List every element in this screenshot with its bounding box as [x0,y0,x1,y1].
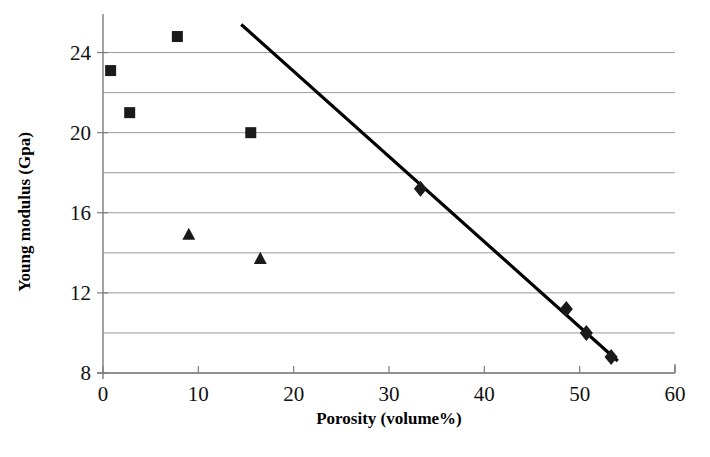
x-tick-labels: 0102030405060 [98,382,686,406]
x-tick-label-40: 40 [474,382,495,406]
x-tick-label-50: 50 [569,382,590,406]
triangle-marker-0 [182,228,195,240]
y-tick-label-16: 16 [70,201,91,225]
diamond-marker-0 [414,181,427,197]
square-marker-0 [105,65,116,76]
square-marker-3 [245,127,256,138]
y-tick-labels: 812162024 [70,41,92,385]
x-tick-label-10: 10 [188,382,209,406]
scatter-chart: 0102030405060 812162024 Porosity (volume… [0,0,710,457]
x-tick-label-60: 60 [665,382,686,406]
x-tick-label-20: 20 [283,382,304,406]
triangle-marker-1 [254,252,267,264]
y-tick-label-20: 20 [70,121,91,145]
y-axis-title: Young modulus (Gpa) [15,132,34,292]
y-tick-label-24: 24 [70,41,92,65]
y-tick-label-12: 12 [70,281,91,305]
diamond-marker-1 [560,301,573,317]
y-tick-label-8: 8 [81,361,92,385]
x-tick-label-30: 30 [379,382,400,406]
chart-figure: 0102030405060 812162024 Porosity (volume… [0,0,710,457]
x-axis-title: Porosity (volume%) [316,409,462,428]
axis-lines [97,14,675,379]
data-markers [105,31,618,365]
square-marker-2 [172,31,183,42]
x-tick-label-0: 0 [98,382,109,406]
gridlines [103,53,675,373]
square-marker-1 [124,107,135,118]
